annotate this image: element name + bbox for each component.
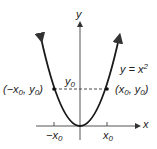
x-axis-label: x bbox=[143, 119, 149, 130]
point-pos bbox=[105, 87, 109, 91]
point-pos-label: (x0, y0) bbox=[115, 84, 148, 97]
point-neg bbox=[52, 87, 56, 91]
y0-label: y0 bbox=[65, 76, 75, 89]
curve-label: y = x2 bbox=[120, 63, 148, 75]
curve-label-lhs: y = x bbox=[120, 63, 144, 75]
y-axis-label: y bbox=[76, 9, 82, 20]
curve-label-exp: 2 bbox=[144, 62, 148, 71]
point-neg-label: (−x0, y0) bbox=[3, 84, 43, 97]
x-tick-pos-label: x0 bbox=[103, 130, 113, 143]
x-tick-neg-label: −x0 bbox=[46, 130, 62, 143]
